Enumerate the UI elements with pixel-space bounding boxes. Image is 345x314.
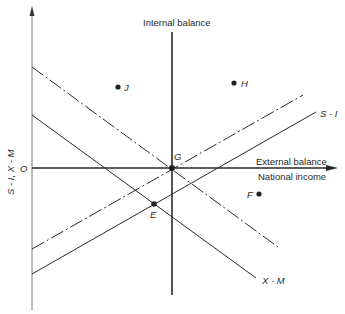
point-g-label: G bbox=[174, 151, 181, 162]
x-axis-label: National income bbox=[258, 171, 326, 182]
point-h-label: H bbox=[241, 78, 248, 89]
s-minus-i-label: S - I bbox=[320, 108, 338, 119]
point-j-marker bbox=[115, 84, 120, 89]
point-j-label: J bbox=[123, 82, 129, 93]
y-axis-label: S - I, X - M bbox=[5, 150, 16, 195]
x-minus-m-label: X - M bbox=[261, 275, 285, 286]
y-axis-arrow-icon bbox=[30, 6, 35, 16]
point-h-marker bbox=[231, 80, 236, 85]
x-minus-m-line bbox=[32, 115, 256, 278]
point-e-label: E bbox=[150, 209, 157, 220]
point-g-marker bbox=[169, 165, 175, 171]
s-minus-i-line bbox=[32, 112, 316, 274]
x-minus-m-dashed-line bbox=[32, 67, 278, 247]
internal-balance-label: Internal balance bbox=[143, 17, 211, 28]
point-f-label: F bbox=[247, 189, 254, 200]
income-balance-diagram: Internal balance External balance Nation… bbox=[0, 0, 345, 314]
point-e-marker bbox=[151, 201, 157, 207]
point-f-marker bbox=[256, 191, 261, 196]
external-balance-label: External balance bbox=[256, 156, 327, 167]
origin-label: O bbox=[20, 163, 28, 174]
x-axis-arrow-icon bbox=[326, 165, 338, 171]
